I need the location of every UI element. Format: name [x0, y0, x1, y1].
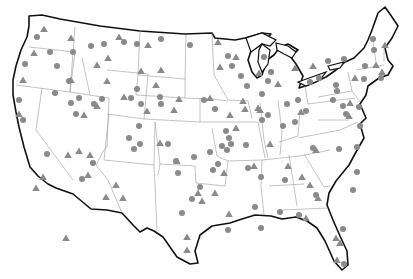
- circle-marker: [226, 135, 232, 141]
- circle-marker: [187, 42, 193, 48]
- circle-marker: [126, 135, 132, 141]
- circle-marker: [165, 141, 171, 147]
- circle-marker: [334, 88, 340, 94]
- circle-marker: [245, 165, 251, 171]
- circle-marker: [128, 95, 134, 101]
- circle-marker: [52, 90, 58, 96]
- circle-marker: [134, 41, 140, 47]
- triangle-marker: [32, 184, 40, 191]
- circle-marker: [229, 63, 235, 69]
- circle-marker: [201, 97, 207, 103]
- circle-marker: [354, 144, 360, 150]
- circle-marker: [131, 146, 137, 152]
- circle-marker: [265, 78, 271, 84]
- circle-marker: [225, 53, 231, 59]
- circle-marker: [259, 91, 265, 97]
- circle-marker: [284, 101, 290, 107]
- circle-marker: [265, 112, 271, 118]
- circle-marker: [88, 43, 94, 49]
- circle-marker: [336, 146, 342, 152]
- circle-marker: [175, 170, 181, 176]
- circle-marker: [34, 34, 40, 40]
- circle-marker: [340, 103, 346, 109]
- circle-marker: [138, 101, 144, 107]
- circle-marker: [370, 36, 376, 42]
- circle-marker: [197, 184, 203, 190]
- triangle-marker: [62, 234, 70, 241]
- circle-marker: [244, 83, 250, 89]
- circle-marker: [280, 123, 286, 129]
- circle-marker: [277, 209, 283, 215]
- circle-marker: [212, 106, 218, 112]
- circle-marker: [258, 174, 264, 180]
- circle-marker: [223, 128, 229, 134]
- circle-marker: [225, 227, 231, 233]
- circle-marker: [99, 96, 105, 102]
- circle-marker: [340, 226, 346, 232]
- circle-marker: [158, 36, 164, 42]
- circle-marker: [292, 119, 298, 125]
- circle-marker: [333, 82, 339, 88]
- circle-marker: [16, 97, 22, 103]
- circle-marker: [79, 176, 85, 182]
- circle-marker: [134, 86, 140, 92]
- circle-marker: [378, 75, 384, 81]
- circle-marker: [189, 196, 195, 202]
- circle-marker: [243, 142, 249, 148]
- circle-marker: [357, 123, 363, 129]
- circle-marker: [307, 79, 313, 85]
- circle-marker: [261, 54, 267, 60]
- circle-marker: [73, 111, 79, 117]
- circle-marker: [371, 47, 377, 53]
- circle-marker: [210, 167, 216, 173]
- circle-marker: [224, 147, 230, 153]
- circle-marker: [70, 49, 76, 55]
- circle-marker: [228, 141, 234, 147]
- circle-marker: [316, 75, 322, 81]
- circle-marker: [295, 97, 301, 103]
- circle-marker: [341, 56, 347, 62]
- circle-marker: [341, 261, 347, 267]
- circle-marker: [54, 63, 60, 69]
- circle-marker: [101, 41, 107, 47]
- circle-marker: [137, 141, 143, 147]
- us-map: [0, 0, 413, 279]
- circle-marker: [258, 225, 264, 231]
- circle-marker: [362, 63, 368, 69]
- circle-marker: [44, 151, 50, 157]
- circle-marker: [259, 117, 265, 123]
- circle-marker: [303, 108, 309, 114]
- circle-marker: [252, 204, 258, 210]
- circle-marker: [22, 61, 28, 67]
- circle-marker: [76, 95, 82, 101]
- circle-marker: [158, 101, 164, 107]
- circle-marker: [68, 100, 74, 106]
- circle-marker: [47, 49, 53, 55]
- circle-marker: [325, 58, 331, 64]
- country-outline: [13, 7, 398, 270]
- circle-marker: [179, 210, 185, 216]
- circle-marker: [191, 154, 197, 160]
- circle-marker: [238, 73, 244, 79]
- circle-marker: [356, 104, 362, 110]
- circle-marker: [207, 149, 213, 155]
- circle-marker: [361, 76, 367, 82]
- circle-marker: [282, 177, 288, 183]
- circle-marker: [90, 160, 96, 166]
- circle-marker: [354, 169, 360, 175]
- circle-marker: [215, 161, 221, 167]
- circle-marker: [296, 212, 302, 218]
- circle-marker: [268, 69, 274, 75]
- circle-marker: [157, 94, 163, 100]
- circle-marker: [219, 143, 225, 149]
- circle-marker: [350, 187, 356, 193]
- circle-marker: [330, 97, 336, 103]
- circle-marker: [20, 117, 26, 123]
- circle-marker: [136, 123, 142, 129]
- triangle-marker: [309, 62, 317, 69]
